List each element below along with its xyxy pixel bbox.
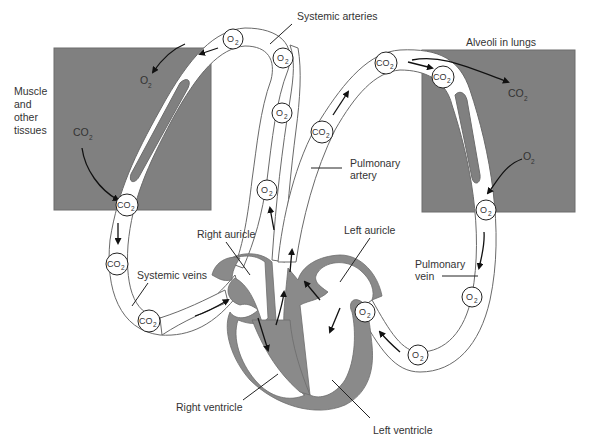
- cell-o2: O2: [223, 29, 243, 49]
- muscle-label-line1: Muscle: [14, 85, 47, 97]
- cell-o2: O2: [476, 200, 496, 220]
- cell-co2: CO2: [375, 52, 397, 74]
- svg-text:2: 2: [474, 297, 478, 304]
- svg-text:CO: CO: [312, 127, 326, 137]
- cell-co2: CO2: [138, 310, 160, 332]
- svg-text:2: 2: [148, 82, 152, 89]
- svg-text:2: 2: [420, 355, 424, 362]
- svg-text:O: O: [261, 185, 268, 195]
- left-ventricle-label: Left ventricle: [373, 424, 433, 436]
- svg-text:2: 2: [447, 77, 451, 84]
- svg-text:2: 2: [285, 58, 289, 65]
- svg-text:CO: CO: [508, 87, 524, 99]
- svg-text:O: O: [466, 292, 473, 302]
- svg-text:2: 2: [284, 113, 288, 120]
- svg-text:O: O: [523, 150, 531, 162]
- cell-co2: CO2: [432, 66, 454, 88]
- cell-o2: O2: [462, 287, 482, 307]
- alveoli-label: Alveoli in lungs: [466, 36, 536, 48]
- svg-text:2: 2: [153, 321, 157, 328]
- svg-text:CO: CO: [107, 259, 121, 269]
- svg-text:2: 2: [89, 134, 93, 141]
- systemic-arteries-label: Systemic arteries: [297, 10, 378, 22]
- pulmonary-vein-label-1: Pulmonary: [415, 258, 466, 270]
- systemic-veins-label: Systemic veins: [137, 269, 207, 281]
- cell-o2: O2: [257, 180, 277, 200]
- svg-text:2: 2: [269, 190, 273, 197]
- svg-text:2: 2: [131, 205, 135, 212]
- muscle-label-line2: and: [14, 98, 32, 110]
- cell-co2: CO2: [311, 121, 333, 143]
- left-auricle-label: Left auricle: [344, 224, 396, 236]
- right-auricle-label: Right auricle: [197, 228, 256, 240]
- cell-o2: O2: [273, 48, 293, 68]
- cell-co2: CO2: [106, 253, 128, 275]
- pulmonary-artery-label-2: artery: [350, 169, 378, 181]
- muscle-label-line4: tissues: [14, 124, 47, 136]
- svg-text:2: 2: [121, 264, 125, 271]
- pulmonary-artery-label-1: Pulmonary: [350, 157, 401, 169]
- svg-text:O: O: [227, 34, 234, 44]
- svg-text:CO: CO: [139, 316, 153, 326]
- cell-o2: O2: [408, 345, 428, 365]
- svg-text:2: 2: [235, 39, 239, 46]
- svg-text:2: 2: [367, 312, 371, 319]
- circulation-diagram: O2 O2 O2 O2 CO2 CO2 CO2 CO2 CO2 CO2 O2 O…: [0, 0, 589, 443]
- svg-text:CO: CO: [433, 72, 447, 82]
- svg-text:O: O: [412, 350, 419, 360]
- svg-text:2: 2: [531, 158, 535, 165]
- svg-text:CO: CO: [117, 200, 131, 210]
- svg-text:O: O: [277, 53, 284, 63]
- svg-text:2: 2: [326, 132, 330, 139]
- svg-text:2: 2: [524, 95, 528, 102]
- right-ventricle-label: Right ventricle: [176, 401, 243, 413]
- svg-text:O: O: [140, 74, 148, 86]
- cell-o2: O2: [272, 103, 292, 123]
- svg-text:CO: CO: [376, 58, 390, 68]
- svg-text:2: 2: [488, 210, 492, 217]
- svg-text:O: O: [276, 108, 283, 118]
- svg-text:2: 2: [390, 63, 394, 70]
- cell-o2: O2: [355, 302, 375, 322]
- svg-text:CO: CO: [73, 126, 89, 138]
- cell-co2: CO2: [116, 194, 138, 216]
- heart: [212, 254, 382, 410]
- svg-text:O: O: [480, 205, 487, 215]
- muscle-label-line3: other: [14, 111, 38, 123]
- pulmonary-vein-label-2: vein: [415, 270, 434, 282]
- svg-text:O: O: [359, 307, 366, 317]
